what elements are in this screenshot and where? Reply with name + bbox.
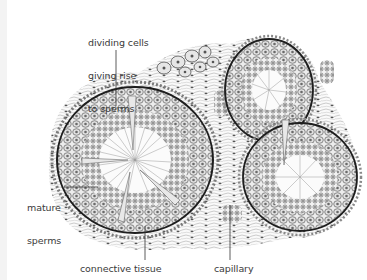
label-dividing-cells-line2: giving rise xyxy=(88,70,149,81)
label-mature-sperms-line2: sperms xyxy=(27,235,61,246)
label-capillary: capillary xyxy=(214,263,253,274)
label-connective-tissue: connective tissue xyxy=(80,263,161,274)
label-dividing-cells-line1: dividing cells xyxy=(88,37,149,48)
label-dividing-cells-line3: to sperms xyxy=(88,103,149,114)
label-mature-sperms-line1: mature xyxy=(27,202,61,213)
label-mature-sperms: mature sperms xyxy=(27,180,61,257)
label-dividing-cells: dividing cells giving rise to sperms xyxy=(88,15,149,125)
